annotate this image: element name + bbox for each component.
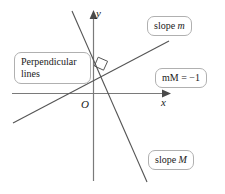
perpendicular-lines-figure: y x O Perpendicular lines slope m mM = −… [0, 0, 225, 194]
callout-slope-M: slope M [148, 150, 194, 170]
callout-slope-M-word: slope [155, 154, 176, 165]
callout-slope-m-symbol: m [178, 20, 185, 31]
callout-relation: mM = −1 [155, 68, 207, 88]
callout-perpendicular-line1: Perpendicular [21, 56, 84, 68]
origin-label: O [81, 99, 89, 110]
callout-slope-m-word: slope [154, 20, 175, 31]
y-axis [90, 10, 98, 181]
callout-perpendicular-lines: Perpendicular lines [14, 52, 91, 84]
callout-slope-m: slope m [147, 16, 192, 36]
y-axis-label: y [96, 8, 101, 19]
callout-perpendicular-line2: lines [21, 68, 84, 80]
line-slope-M [72, 11, 147, 182]
x-axis-label: x [161, 97, 166, 108]
callout-slope-M-symbol: M [179, 154, 187, 165]
x-axis [12, 90, 171, 98]
right-angle-marker [94, 57, 107, 70]
